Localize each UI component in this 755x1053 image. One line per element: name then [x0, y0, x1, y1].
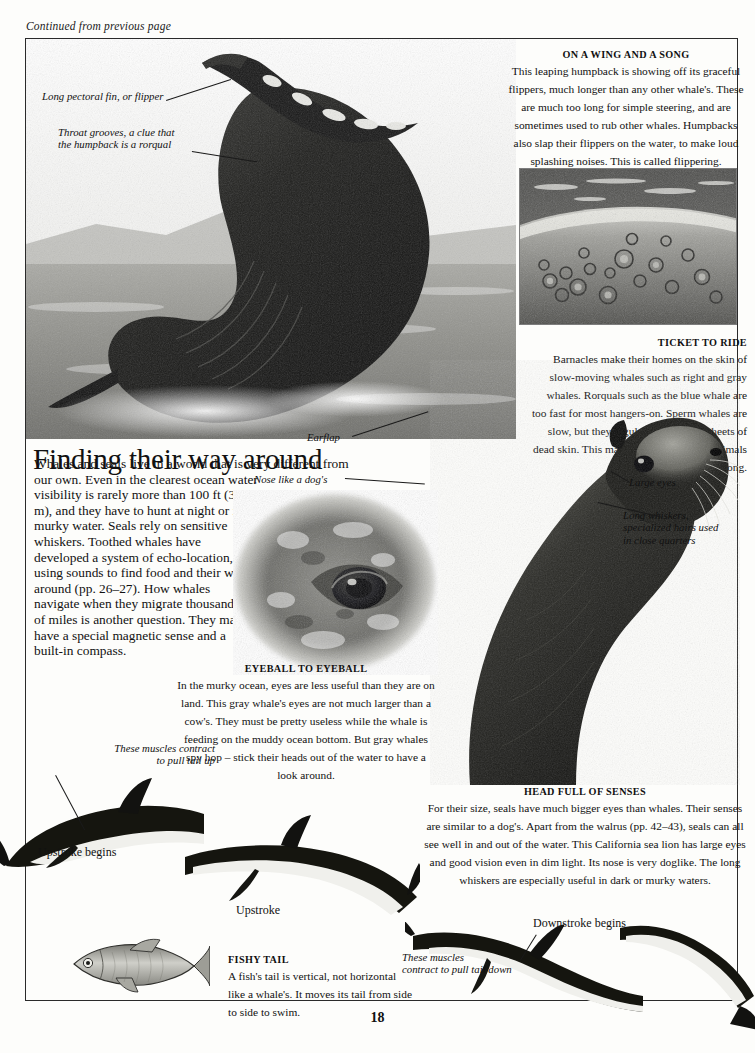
caption-title-fishy-tail: FISHY TAIL: [228, 954, 413, 965]
label-these-muscles-contract-to-pull-tail-down: These muscles contract to pull tail down: [402, 951, 562, 976]
book-page: Continued from previous page: [0, 0, 755, 1053]
label-these-muscles-contract-to-pull-tail-up: These muscles contract to pull tail up: [40, 742, 215, 767]
label-throat-grooves: Throat grooves, a clue that the humpback…: [58, 126, 248, 151]
label-long-whiskers: Long whiskers, specialized hairs used in…: [623, 509, 753, 546]
label-earflap: Earflap: [307, 431, 340, 443]
caption-body-eyeball-to-eyeball: In the murky ocean, eyes are less useful…: [177, 679, 434, 781]
label-downstroke-begins: Downstroke begins: [533, 916, 626, 931]
caption-body-on-a-wing-and-a-song: This leaping humpback is showing off its…: [509, 65, 744, 167]
page-number: 18: [0, 1010, 755, 1026]
dolphin-upstroke-photo: [185, 815, 420, 925]
label-upstroke-begins: Upstroke begins: [38, 845, 116, 860]
intro-wide-text: Whales and seals live in a world that is…: [34, 456, 349, 487]
caption-head-full-of-senses: HEAD FULL OF SENSES For their size, seal…: [420, 786, 750, 888]
caption-body-head-full-of-senses: For their size, seals have much bigger e…: [424, 802, 745, 886]
barnacles-on-whale-skin-photo: [519, 168, 737, 325]
caption-title-on-a-wing-and-a-song: ON A WING AND A SONG: [505, 49, 747, 60]
caption-on-a-wing-and-a-song: ON A WING AND A SONG This leaping humpba…: [505, 49, 747, 169]
label-long-pectoral-fin: Long pectoral fin, or flipper: [42, 90, 222, 102]
label-upstroke: Upstroke: [236, 903, 280, 918]
intro-narrow-text: visibility is rarely more than 100 ft (3…: [34, 487, 249, 659]
label-large-eyes: Large eyes: [629, 476, 676, 488]
gray-whale-eye-photo: [233, 490, 438, 675]
caption-title-ticket-to-ride: TICKET TO RIDE: [530, 337, 747, 348]
caption-title-eyeball-to-eyeball: EYEBALL TO EYEBALL: [175, 663, 437, 674]
caption-title-head-full-of-senses: HEAD FULL OF SENSES: [420, 786, 750, 797]
california-sea-lion-photo: [430, 360, 740, 785]
continued-from-previous-page-note: Continued from previous page: [26, 20, 171, 32]
herring-fish-photo: [60, 930, 210, 1000]
